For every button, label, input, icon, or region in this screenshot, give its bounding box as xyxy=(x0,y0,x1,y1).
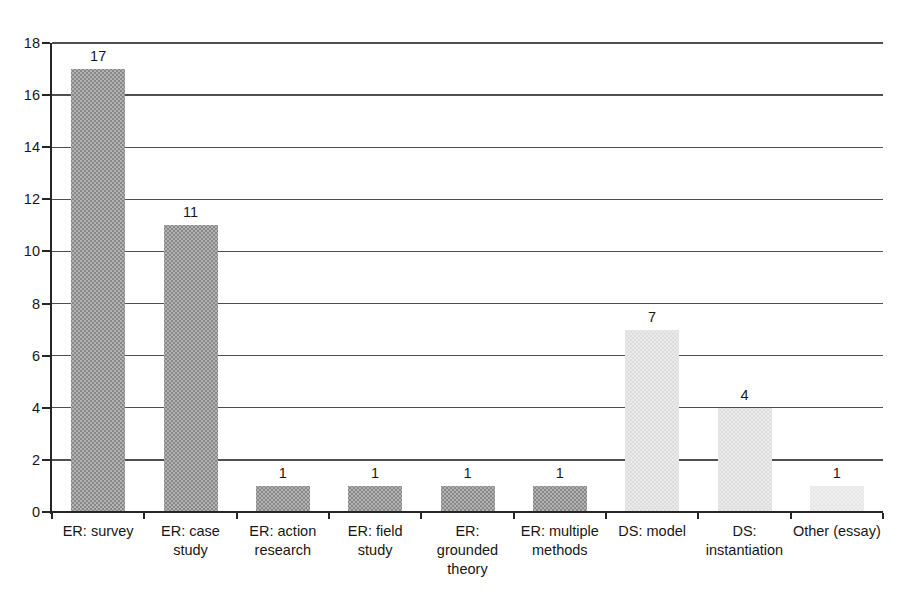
gridline xyxy=(52,94,883,95)
category-label-line: ER: multiple xyxy=(508,522,612,541)
category-label-line: theory xyxy=(415,560,519,579)
category-label-line: ER: action xyxy=(231,522,335,541)
gridline xyxy=(52,199,883,200)
category-label: ER: actionresearch xyxy=(231,522,335,560)
gridline xyxy=(52,147,883,148)
y-tick xyxy=(42,459,50,461)
x-tick xyxy=(328,513,330,519)
bar xyxy=(441,486,495,512)
x-tick xyxy=(143,513,145,519)
category-label-line: DS: xyxy=(692,522,796,541)
category-label-line: research xyxy=(231,541,335,560)
bar-value-label: 7 xyxy=(648,308,656,326)
category-label-line: ER: case xyxy=(138,522,242,541)
bar-value-label: 11 xyxy=(183,203,198,221)
bar-value-label: 1 xyxy=(463,464,471,482)
y-tick xyxy=(42,407,50,409)
y-tick-label: 18 xyxy=(0,34,40,52)
y-tick xyxy=(42,511,50,513)
y-tick-label: 6 xyxy=(0,347,40,365)
category-label: ER: multiplemethods xyxy=(508,522,612,560)
y-tick-label: 12 xyxy=(0,190,40,208)
bar-value-label: 1 xyxy=(833,464,841,482)
bar-value-label: 1 xyxy=(279,464,287,482)
x-tick xyxy=(513,513,515,519)
y-tick-label: 4 xyxy=(0,399,40,417)
bar xyxy=(625,330,679,512)
bar-value-label: 17 xyxy=(90,47,106,65)
x-tick xyxy=(790,513,792,519)
gridline xyxy=(52,42,883,43)
bar xyxy=(164,225,218,512)
category-label: Other (essay) xyxy=(785,522,889,541)
category-label-line: ER: field xyxy=(323,522,427,541)
x-tick xyxy=(236,513,238,519)
y-tick-label: 8 xyxy=(0,295,40,313)
category-label-line: ER: survey xyxy=(46,522,150,541)
bar-value-label: 4 xyxy=(740,386,748,404)
category-label-line: ER: xyxy=(415,522,519,541)
x-tick xyxy=(697,513,699,519)
category-label-line: DS: model xyxy=(600,522,704,541)
bar xyxy=(533,486,587,512)
y-tick-label: 14 xyxy=(0,138,40,156)
category-label-line: study xyxy=(323,541,427,560)
y-axis-line xyxy=(50,43,52,514)
category-label-line: grounded xyxy=(415,541,519,560)
category-label: ER: fieldstudy xyxy=(323,522,427,560)
y-tick xyxy=(42,94,50,96)
category-label: DS: model xyxy=(600,522,704,541)
x-tick xyxy=(882,513,884,519)
bar xyxy=(71,69,125,512)
y-tick xyxy=(42,355,50,357)
category-label: ER: casestudy xyxy=(138,522,242,560)
y-tick xyxy=(42,303,50,305)
x-tick xyxy=(51,513,53,519)
bar-value-label: 1 xyxy=(371,464,379,482)
category-label-line: instantiation xyxy=(692,541,796,560)
category-label: ER:groundedtheory xyxy=(415,522,519,579)
bar xyxy=(718,408,772,512)
x-tick xyxy=(605,513,607,519)
y-tick-label: 16 xyxy=(0,86,40,104)
category-label: DS:instantiation xyxy=(692,522,796,560)
x-tick xyxy=(420,513,422,519)
y-tick-label: 2 xyxy=(0,451,40,469)
category-label-line: methods xyxy=(508,541,612,560)
plot-area: 17111111741024681012141618ER: surveyER: … xyxy=(0,0,914,605)
category-label-line: study xyxy=(138,541,242,560)
category-label: ER: survey xyxy=(46,522,150,541)
bar-chart-figure: 17111111741024681012141618ER: surveyER: … xyxy=(0,0,914,605)
bar xyxy=(810,486,864,512)
bar-value-label: 1 xyxy=(556,464,564,482)
category-label-line: Other (essay) xyxy=(785,522,889,541)
y-tick-label: 0 xyxy=(0,503,40,521)
y-tick xyxy=(42,198,50,200)
bar xyxy=(348,486,402,512)
y-tick xyxy=(42,42,50,44)
y-tick xyxy=(42,146,50,148)
y-tick xyxy=(42,250,50,252)
x-axis-line xyxy=(50,511,883,513)
y-tick-label: 10 xyxy=(0,242,40,260)
bar xyxy=(256,486,310,512)
